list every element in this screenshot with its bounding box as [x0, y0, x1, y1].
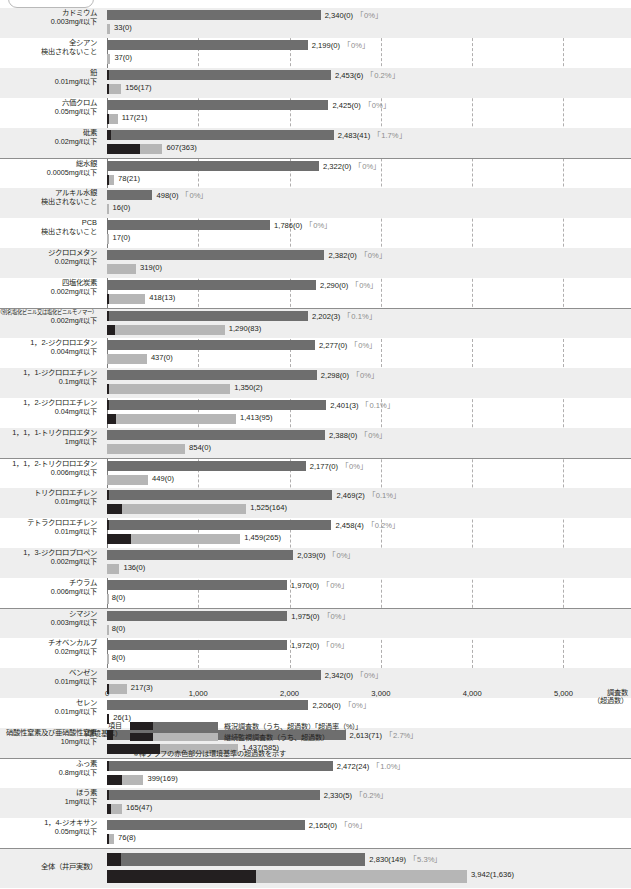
monitor-bar	[107, 234, 109, 244]
row-bars: 498(0)「0%」16(0)	[107, 188, 631, 218]
row-label-standard: 0.006mg/ℓ以下	[0, 469, 97, 477]
survey-value: 2,425(0)「0%」	[332, 99, 390, 110]
monitor-value: 399(169)	[147, 774, 177, 783]
survey-bar	[107, 70, 331, 80]
row-bars: 2,382(0)「0%」319(0)	[107, 248, 631, 278]
survey-value-count: 2,199(0)	[312, 41, 340, 50]
monitor-bar	[107, 325, 225, 335]
x-tick-label-0: 0	[105, 689, 109, 698]
survey-value: 2,202(3)「0.1%」	[312, 310, 377, 321]
survey-value: 2,322(0)「0%」	[323, 160, 381, 171]
monitor-value-count: 607(363)	[166, 143, 196, 152]
monitor-bar	[107, 870, 467, 883]
monitor-value-count: 78(21)	[118, 174, 140, 183]
monitor-value: 319(0)	[140, 263, 162, 272]
monitor-value-count: 418(13)	[149, 293, 175, 302]
row-label: 全体（井戸実数）	[0, 849, 97, 871]
monitor-bar	[107, 24, 110, 34]
row-label-standard: 検出されないこと	[0, 228, 97, 236]
survey-value-count: 2,401(3)	[330, 401, 358, 410]
monitor-bar-exceed	[107, 834, 109, 844]
monitor-value: 17(0)	[113, 233, 131, 242]
survey-value-count: 2,322(0)	[323, 162, 351, 171]
survey-value-count: 2,340(0)	[325, 11, 353, 20]
survey-value: 2,340(0)「0%」	[325, 9, 383, 20]
survey-value-rate: 「0%」	[181, 191, 208, 200]
survey-bar-exceed	[107, 130, 111, 140]
row-label: チオベンカルブ0.02mg/ℓ以下	[0, 638, 97, 656]
row-bars: 2,199(0)「0%」37(0)	[107, 38, 631, 68]
survey-bar	[107, 130, 334, 140]
row-label-name: 1，2-ジクロロエチレン	[0, 399, 97, 407]
monitor-bar	[107, 114, 118, 124]
row-label-standard: 0.01mg/ℓ以下	[0, 708, 97, 716]
monitor-bar	[107, 204, 109, 214]
row-bars: 2,401(3)「0.1%」1,413(95)	[107, 398, 631, 428]
survey-value: 2,298(0)「0%」	[321, 369, 379, 380]
monitor-value-count: 1,290(83)	[229, 324, 262, 333]
survey-value-rate: 「0%」	[351, 281, 378, 290]
monitor-bar	[107, 84, 121, 94]
row-bars: 2,830(149)「5.3%」3,942(1,636)	[107, 849, 631, 889]
monitor-bar	[107, 444, 185, 454]
row-label: 1，4-ジオキサン0.05mg/ℓ以下	[0, 818, 97, 836]
survey-value-rate: 「1.7%」	[373, 131, 406, 140]
row-label-name: 1，1，1-トリクロロエタン	[0, 429, 97, 437]
monitor-value: 156(17)	[125, 83, 151, 92]
survey-value: 2,401(3)「0.1%」	[330, 399, 395, 410]
row-label: 総水銀0.0005mg/ℓ以下	[0, 159, 97, 177]
row-label-standard: 0.006mg/ℓ以下	[0, 588, 97, 596]
survey-value-count: 2,342(0)	[325, 671, 353, 680]
row-bars: 2,039(0)「0%」136(0)	[107, 548, 631, 578]
survey-value-count: 1,975(0)	[291, 612, 319, 621]
legend-note: ※棒グラフの赤色部分は環境基準の超過数を示す	[133, 748, 286, 758]
survey-bar	[107, 490, 332, 500]
monitor-bar	[107, 594, 109, 604]
row-label-standard: 0.05mg/ℓ以下	[0, 828, 97, 836]
row-label: 1，2-ジクロロエチレン0.04mg/ℓ以下	[0, 398, 97, 416]
row-label-standard: 0.002mg/ℓ以下	[0, 288, 97, 296]
monitor-value-count: 3,942(1,636)	[471, 870, 514, 879]
row-bars: 2,165(0)「0%」76(8)	[107, 818, 631, 848]
chart-row: ジクロロメタン0.02mg/ℓ以下2,382(0)「0%」319(0)	[0, 248, 631, 278]
survey-value-rate: 「0%」	[354, 162, 381, 171]
monitor-bar	[107, 775, 143, 785]
survey-bar	[107, 250, 324, 260]
chart-row: テトラクロロエチレン0.01mg/ℓ以下2,458(4)「0.2%」1,459(…	[0, 518, 631, 548]
monitor-value: 854(0)	[189, 443, 211, 452]
survey-bar-exceed	[107, 400, 109, 410]
monitor-bar-exceed	[107, 414, 116, 424]
chart-row: 1，2-ジクロロエタン0.004mg/ℓ以下2,277(0)「0%」437(0)	[0, 338, 631, 368]
monitor-bar	[107, 414, 236, 424]
monitor-value-count: 17(0)	[113, 233, 131, 242]
row-label-name: シマジン	[0, 610, 97, 618]
chart-row: 全体（井戸実数）2,830(149)「5.3%」3,942(1,636)	[0, 848, 631, 888]
row-bars: 1,975(0)「0%」8(0)	[107, 609, 631, 639]
monitor-value: 8(0)	[112, 593, 126, 602]
survey-value-count: 2,277(0)	[319, 341, 347, 350]
survey-bar-exceed	[107, 490, 109, 500]
row-label: テトラクロロエチレン0.01mg/ℓ以下	[0, 518, 97, 536]
survey-value-count: 2,290(0)	[320, 281, 348, 290]
monitor-value: 76(8)	[118, 833, 136, 842]
row-bars: 2,469(2)「0.1%」1,525(164)	[107, 488, 631, 518]
row-label-name: 六価クロム	[0, 99, 97, 107]
monitor-bar	[107, 834, 114, 844]
row-label-standard: 0.01mg/ℓ以下	[0, 78, 97, 86]
monitor-value: 26(1)	[113, 713, 131, 722]
survey-bar	[107, 520, 331, 530]
survey-bar	[107, 580, 287, 590]
monitor-bar	[107, 504, 246, 514]
row-label: 1，2-ジクロロエタン0.004mg/ℓ以下	[0, 338, 97, 356]
chart-row: 総水銀0.0005mg/ℓ以下2,322(0)「0%」78(21)	[0, 158, 631, 188]
row-label: 砒素0.02mg/ℓ以下	[0, 128, 97, 146]
monitor-bar-exceed	[107, 325, 115, 335]
clipped-header-box	[8, 0, 94, 8]
survey-value: 2,458(4)「0.2%」	[335, 519, 400, 530]
monitor-value: 8(0)	[112, 624, 126, 633]
chart-row: 1，1，2-トリクロロエタン0.006mg/ℓ以下2,177(0)「0%」449…	[0, 458, 631, 488]
survey-value-count: 2,469(2)	[336, 491, 364, 500]
survey-value-count: 1,970(0)	[291, 581, 319, 590]
survey-value: 2,039(0)「0%」	[297, 549, 355, 560]
row-label-standard: 0.002mg/ℓ以下	[0, 317, 97, 325]
